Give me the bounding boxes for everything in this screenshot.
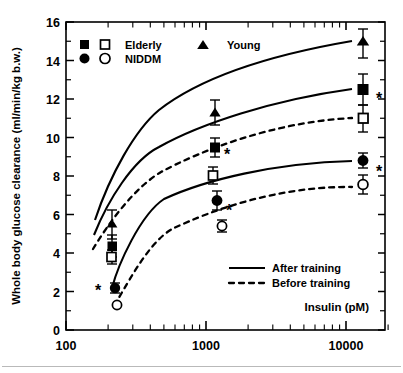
significance-asterisk: * bbox=[226, 202, 233, 219]
legend-marker-filled-square bbox=[80, 40, 89, 49]
markers-niddm-before bbox=[112, 180, 368, 310]
legend-marker-filled-circle bbox=[80, 54, 90, 64]
significance-asterisk: * bbox=[224, 146, 231, 163]
data-point-filled-circle bbox=[110, 283, 120, 293]
x-tick-label: 10000 bbox=[329, 339, 364, 353]
markers-elderly-after bbox=[108, 84, 369, 251]
legend-marker-open-circle bbox=[100, 54, 110, 64]
y-tick-label: 4 bbox=[53, 247, 60, 261]
series-young-curve bbox=[95, 41, 352, 220]
data-point-filled-circle bbox=[212, 195, 223, 206]
glucose-clearance-chart: 0 2 4 6 8 10 12 14 16 Whole body glucose… bbox=[0, 0, 403, 373]
y-tick-labels: 0 2 4 6 8 10 12 14 16 bbox=[46, 16, 60, 338]
data-point-filled-triangle bbox=[209, 108, 220, 117]
data-point-open-circle bbox=[112, 300, 121, 309]
data-point-open-circle bbox=[217, 221, 226, 230]
significance-asterisk: * bbox=[95, 282, 102, 299]
legend-label-elderly: Elderly bbox=[125, 39, 163, 51]
data-point-filled-triangle bbox=[107, 219, 118, 228]
figure-container: 0 2 4 6 8 10 12 14 16 Whole body glucose… bbox=[0, 0, 403, 373]
y-tick-label: 16 bbox=[46, 16, 60, 30]
data-point-filled-square bbox=[358, 84, 369, 95]
legend-label-young: Young bbox=[227, 39, 260, 51]
markers-young bbox=[107, 36, 370, 228]
data-point-filled-circle bbox=[358, 155, 369, 166]
data-point-open-circle bbox=[358, 180, 368, 190]
data-point-open-square bbox=[209, 171, 218, 180]
y-tick-label: 6 bbox=[53, 209, 60, 223]
data-point-filled-triangle bbox=[357, 36, 369, 46]
data-point-filled-square bbox=[210, 143, 220, 153]
legend-marker-filled-triangle bbox=[197, 40, 209, 49]
y-tick-label: 14 bbox=[46, 55, 60, 69]
x-tick-label: 1000 bbox=[192, 339, 220, 353]
significance-asterisk: * bbox=[376, 90, 383, 107]
legend-marker-open-square bbox=[101, 40, 110, 49]
y-tick-label: 8 bbox=[53, 170, 60, 184]
marker-legend: Elderly NIDDM Young bbox=[80, 39, 261, 65]
legend-label-after-training: After training bbox=[272, 262, 341, 274]
y-tick-label: 0 bbox=[53, 324, 60, 338]
y-tick-label: 12 bbox=[46, 93, 60, 107]
x-axis-title: Insulin (pM) bbox=[304, 301, 369, 313]
legend-label-niddm: NIDDM bbox=[125, 53, 161, 65]
data-point-open-square bbox=[107, 253, 116, 262]
data-point-open-square bbox=[359, 114, 369, 124]
y-tick-label: 2 bbox=[53, 286, 60, 300]
x-tick-label: 100 bbox=[56, 339, 77, 353]
footer-divider bbox=[2, 366, 401, 367]
significance-asterisk: * bbox=[376, 163, 383, 180]
y-axis-title: Whole body glucose clearance (ml/min/kg … bbox=[10, 47, 22, 305]
data-point-filled-square bbox=[108, 242, 118, 252]
y-tick-label: 10 bbox=[46, 132, 60, 146]
linestyle-legend: After training Before training bbox=[229, 262, 350, 289]
x-tick-labels: 100 1000 10000 bbox=[56, 339, 364, 353]
legend-label-before-training: Before training bbox=[272, 277, 350, 289]
